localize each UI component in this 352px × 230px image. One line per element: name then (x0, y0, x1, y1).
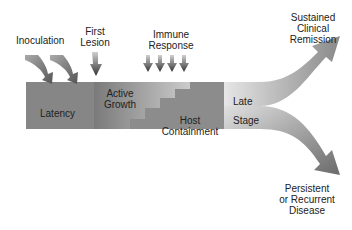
inoculation-arrow-2 (50, 55, 78, 84)
inoculation-arrow-1 (25, 55, 53, 84)
latency-label: Latency (40, 108, 75, 119)
remission-label: Sustained Clinical Remission (278, 12, 348, 45)
host-containment-label: Host Containment (160, 115, 220, 137)
immune-response-arrows (143, 55, 189, 72)
inoculation-label: Inoculation (16, 35, 64, 46)
persistent-disease-label: Persistent or Recurrent Disease (272, 183, 342, 216)
latency-block (26, 82, 94, 129)
late-label: Late (233, 96, 252, 107)
first-lesion-label: First Lesion (80, 26, 110, 48)
immune-response-label: Immune Response (141, 29, 201, 51)
first-lesion-arrow (90, 52, 102, 76)
active-growth-label: Active Growth (100, 88, 140, 110)
stage-label: Stage (233, 115, 259, 126)
